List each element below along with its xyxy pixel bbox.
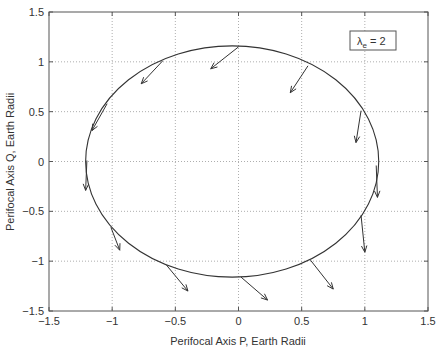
velocity-arrows <box>83 47 380 300</box>
arrow-icon <box>374 165 379 197</box>
y-tick-label: 0.5 <box>29 106 44 118</box>
x-tick-label: 1.5 <box>420 315 435 327</box>
x-tick-label: −0.5 <box>164 315 186 327</box>
arrow-icon <box>354 111 361 143</box>
x-tick-label: 1 <box>362 315 368 327</box>
x-tick-label: 0 <box>235 315 241 327</box>
legend-value: = 2 <box>367 35 386 47</box>
y-tick-label: 0 <box>38 156 44 168</box>
y-tick-label: 1.5 <box>29 6 44 18</box>
y-tick-label: −1.5 <box>22 305 44 317</box>
grid-lines <box>49 12 428 311</box>
arrow-icon <box>311 260 334 289</box>
arrow-icon <box>92 104 107 131</box>
legend-box: λe = 2 <box>350 31 396 50</box>
arrow-icon <box>361 215 367 252</box>
x-tick-label: 0.5 <box>294 315 309 327</box>
y-axis-label: Perifocal Axis Q, Earth Radii <box>4 93 16 231</box>
x-axis-label: Perifocal Axis P, Earth Radii <box>170 335 306 347</box>
y-tick-label: −1 <box>31 255 44 267</box>
arrow-icon <box>241 277 268 300</box>
y-tick-label: −0.5 <box>22 205 44 217</box>
y-tick-label: 1 <box>38 56 44 68</box>
arrow-icon <box>211 47 239 69</box>
x-tick-label: −1 <box>106 315 119 327</box>
arrow-icon <box>290 66 308 93</box>
chart: −1.5−1−0.500.511.51.510.50−0.5−1−1.5 λe … <box>0 0 445 351</box>
